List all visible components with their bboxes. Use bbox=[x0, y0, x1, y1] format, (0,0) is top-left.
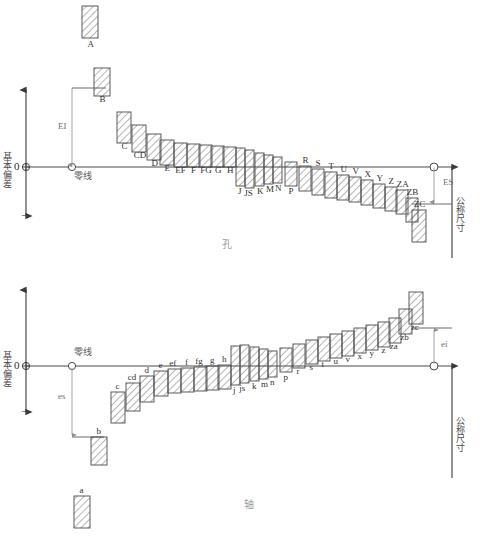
shaft-axis-label: 基本偏差 bbox=[2, 351, 11, 387]
tolerance-zone-hole-S bbox=[312, 169, 324, 195]
shaft-ei-label: ei bbox=[441, 340, 448, 349]
tolerance-zone-hole-Z bbox=[385, 187, 397, 211]
shaft-minus-sign: − bbox=[21, 406, 27, 417]
tolerance-zone-shaft-u bbox=[330, 334, 342, 358]
shaft-zero-tick-label: 0 bbox=[14, 360, 20, 371]
zone-label-hole-U: U bbox=[340, 165, 347, 174]
zone-label-hole-M: M bbox=[266, 185, 274, 194]
zone-label-shaft-m: m bbox=[261, 380, 268, 389]
tolerance-zone-hole-K bbox=[255, 153, 264, 186]
hole-axis-label: 基本偏差 bbox=[2, 152, 11, 188]
tolerance-zone-shaft-m bbox=[259, 349, 268, 379]
zone-label-shaft-k: k bbox=[252, 382, 257, 391]
zone-label-hole-C: C bbox=[121, 142, 127, 151]
zone-label-hole-P: P bbox=[288, 187, 293, 196]
tolerance-zone-hole-Y bbox=[373, 184, 385, 208]
zone-label-shaft-y: y bbox=[369, 349, 374, 358]
zone-label-shaft-ef: ef bbox=[169, 359, 176, 368]
tolerance-zone-hole-U bbox=[337, 175, 349, 200]
hole-EI-label: EI bbox=[58, 122, 67, 131]
tolerance-zone-shaft-n bbox=[268, 351, 277, 377]
tolerance-zone-hole-CD bbox=[132, 125, 146, 152]
tolerance-zone-hole-N bbox=[273, 157, 282, 183]
zone-label-shaft-s: s bbox=[309, 363, 313, 372]
zone-label-hole-EF: EF bbox=[175, 166, 186, 175]
tolerance-zone-hole-J bbox=[236, 148, 245, 186]
tolerance-zone-shaft-t bbox=[318, 337, 330, 361]
zone-label-shaft-n: n bbox=[270, 378, 275, 387]
tolerance-zone-hole-H bbox=[223, 147, 236, 167]
tolerance-zone-shaft-zc bbox=[409, 292, 423, 324]
zone-label-shaft-t: t bbox=[321, 360, 324, 369]
shaft-zero-line-label: 零线 bbox=[74, 348, 92, 357]
hole-nominal-size-label: 公称尺寸 bbox=[455, 196, 464, 232]
zone-label-hole-FG: FG bbox=[200, 166, 212, 175]
shaft-tolerance-zone-group bbox=[74, 292, 423, 528]
hole-minus-sign: − bbox=[21, 210, 27, 221]
tolerance-zone-hole-EF bbox=[174, 143, 187, 167]
zone-label-hole-J: J bbox=[238, 187, 242, 196]
tolerance-zone-hole-JS bbox=[245, 150, 254, 188]
tolerance-zone-hole-B bbox=[94, 68, 110, 96]
zone-label-hole-CD: CD bbox=[134, 151, 147, 160]
zone-label-hole-H: H bbox=[227, 166, 234, 175]
tolerance-zone-hole-G bbox=[211, 146, 224, 167]
tolerance-zone-hole-P bbox=[285, 162, 297, 186]
tolerance-zone-shaft-j bbox=[231, 346, 240, 385]
tolerance-zone-shaft-b bbox=[91, 437, 107, 465]
zone-label-shaft-v: v bbox=[345, 355, 350, 364]
tolerance-zone-shaft-ef bbox=[168, 369, 181, 393]
zone-label-hole-JS: JS bbox=[244, 189, 253, 198]
zone-label-hole-Y: Y bbox=[376, 174, 383, 183]
zone-label-shaft-c: c bbox=[115, 382, 119, 391]
tolerance-zone-hole-X bbox=[361, 180, 373, 205]
zone-label-hole-N: N bbox=[275, 184, 282, 193]
tolerance-zone-hole-R bbox=[299, 166, 311, 191]
zone-label-hole-A: A bbox=[87, 40, 94, 49]
hole-tolerance-zone-group bbox=[82, 6, 426, 242]
hole-zero-tick-label: 0 bbox=[14, 161, 20, 172]
zone-label-shaft-p: p bbox=[283, 373, 288, 382]
tolerance-zone-shaft-p bbox=[280, 348, 292, 372]
tolerance-zone-shaft-k bbox=[250, 347, 259, 381]
tolerance-zone-shaft-f bbox=[181, 368, 194, 392]
zone-label-hole-B: B bbox=[99, 95, 105, 104]
zone-label-shaft-r: r bbox=[296, 367, 299, 376]
tolerance-zone-shaft-c bbox=[111, 392, 125, 423]
shaft-es-label: es bbox=[58, 392, 66, 401]
zone-label-shaft-j: j bbox=[233, 386, 236, 395]
tolerance-zone-shaft-cd bbox=[126, 383, 140, 411]
zone-label-hole-G: G bbox=[215, 166, 222, 175]
hole-ES-label: ES bbox=[443, 178, 454, 187]
zone-label-shaft-h: h bbox=[222, 355, 227, 364]
zone-label-hole-D: D bbox=[151, 159, 158, 168]
tolerance-zone-shaft-fg bbox=[194, 367, 207, 391]
zone-label-hole-F: F bbox=[191, 166, 196, 175]
tolerance-zone-shaft-g bbox=[206, 366, 219, 390]
tolerance-zone-hole-E bbox=[160, 140, 174, 165]
tolerance-zone-hole-D bbox=[147, 134, 161, 160]
zone-label-shaft-b: b bbox=[96, 427, 101, 436]
zone-label-hole-T: T bbox=[328, 162, 334, 171]
zone-label-hole-X: X bbox=[364, 170, 371, 179]
shaft-plus-sign: + bbox=[21, 284, 27, 295]
zone-label-hole-K: K bbox=[257, 187, 264, 196]
tolerance-zone-hole-M bbox=[264, 155, 273, 184]
hole-zero-line-label: 零线 bbox=[74, 172, 92, 181]
zone-label-shaft-js: js bbox=[239, 384, 245, 393]
zone-label-shaft-zb: zb bbox=[400, 333, 409, 342]
figure-canvas: 基本偏差 0 + − 零线 EI ES 公称尺寸 孔 基本偏差 0 + − 零线… bbox=[0, 0, 480, 538]
zone-label-shaft-x: x bbox=[357, 352, 362, 361]
zone-label-shaft-a: a bbox=[79, 486, 83, 495]
tolerance-zone-shaft-v bbox=[342, 331, 354, 356]
tolerance-zone-diagram bbox=[0, 0, 480, 538]
shaft-section-title: 轴 bbox=[244, 500, 254, 510]
zone-label-shaft-fg: fg bbox=[195, 357, 203, 366]
tolerance-zone-shaft-e bbox=[154, 371, 168, 396]
tolerance-zone-hole-ZC bbox=[412, 210, 426, 242]
zone-label-hole-ZC: ZC bbox=[414, 200, 426, 209]
zone-label-shaft-z: z bbox=[381, 346, 385, 355]
zone-label-hole-Z: Z bbox=[388, 177, 394, 186]
zone-label-shaft-u: u bbox=[333, 357, 338, 366]
zone-label-shaft-za: za bbox=[390, 342, 398, 351]
